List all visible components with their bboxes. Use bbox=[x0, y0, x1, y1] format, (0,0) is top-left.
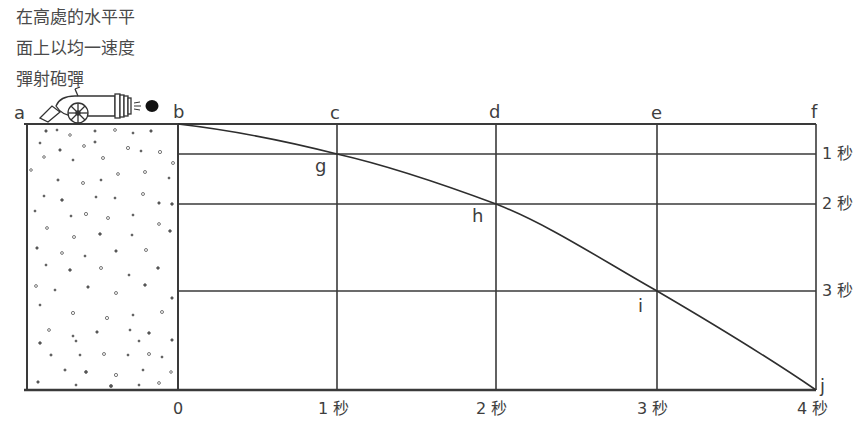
point-label-i: i bbox=[638, 297, 643, 315]
cannon-icon bbox=[40, 87, 141, 123]
cliff-texture bbox=[27, 124, 178, 390]
point-label-d: d bbox=[489, 103, 500, 121]
cannonball-icon bbox=[146, 100, 159, 112]
point-label-g: g bbox=[315, 157, 326, 175]
point-label-b: b bbox=[173, 103, 184, 121]
y-tick-1: 1 秒 bbox=[822, 146, 853, 162]
x-tick-4: 4 秒 bbox=[797, 401, 828, 417]
x-tick-1: 1 秒 bbox=[318, 401, 349, 417]
point-label-e: e bbox=[651, 104, 662, 122]
point-label-c: c bbox=[330, 104, 340, 122]
x-tick-0: 0 bbox=[173, 401, 183, 417]
trajectory-curve bbox=[178, 124, 816, 390]
point-label-h: h bbox=[472, 207, 483, 225]
x-tick-3: 3 秒 bbox=[637, 401, 668, 417]
x-tick-2: 2 秒 bbox=[476, 401, 507, 417]
point-label-j: j bbox=[820, 377, 825, 395]
point-label-f: f bbox=[811, 103, 817, 121]
point-label-a: a bbox=[14, 104, 25, 122]
y-tick-3: 3 秒 bbox=[822, 283, 853, 299]
y-tick-2: 2 秒 bbox=[822, 196, 853, 212]
trajectory-diagram bbox=[0, 0, 867, 437]
